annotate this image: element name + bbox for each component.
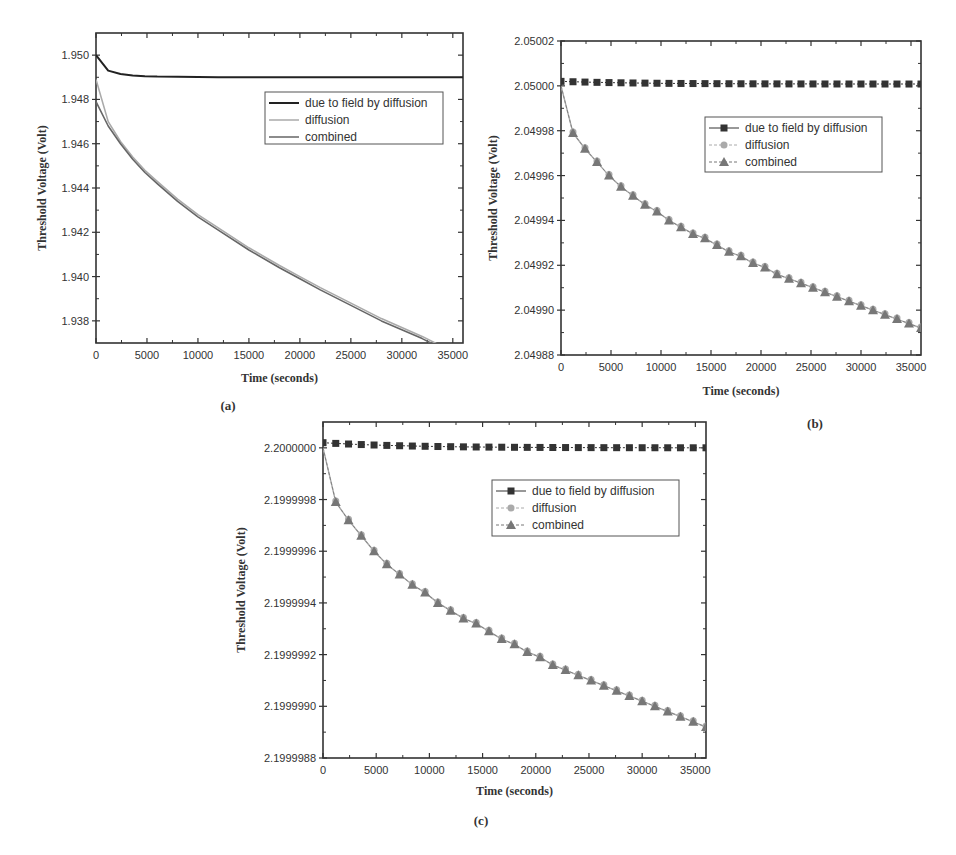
- circle-marker: [508, 505, 515, 512]
- y-axis-title: Threshold Voltage (Volt): [486, 135, 500, 260]
- square-marker: [870, 81, 877, 88]
- x-tick-label: 10000: [646, 361, 677, 373]
- legend-label: due to field by diffusion: [532, 484, 655, 498]
- y-tick-label: 1.946: [61, 138, 89, 150]
- square-marker: [473, 443, 480, 450]
- y-tick-label: 2.04990: [514, 304, 554, 316]
- triangle-marker: [458, 613, 468, 622]
- x-axis-title: Time (seconds): [703, 384, 780, 398]
- y-tick-label: 2.2000000: [264, 442, 316, 454]
- legend: due to field by diffusiondiffusioncombin…: [265, 92, 443, 144]
- triangle-marker: [586, 675, 596, 684]
- triangle-marker: [736, 251, 746, 260]
- legend-label: due to field by diffusion: [745, 121, 868, 135]
- x-tick-label: 15000: [696, 361, 727, 373]
- square-marker: [654, 80, 661, 87]
- triangle-marker: [497, 634, 507, 643]
- triangle-marker: [904, 319, 914, 328]
- triangle-marker: [612, 686, 622, 695]
- square-marker: [664, 444, 671, 451]
- x-tick-label: 30000: [846, 361, 877, 373]
- x-tick-label: 35000: [680, 764, 711, 776]
- square-marker: [786, 80, 793, 87]
- triangle-marker: [724, 247, 734, 256]
- y-tick-label: 2.04998: [514, 125, 554, 137]
- triangle-marker: [748, 258, 758, 267]
- triangle-marker: [832, 292, 842, 301]
- y-tick-label: 1.948: [61, 93, 89, 105]
- legend-label: combined: [532, 518, 584, 532]
- square-marker: [918, 81, 925, 88]
- legend-label: due to field by diffusion: [305, 96, 428, 110]
- square-marker: [409, 443, 416, 450]
- triangle-marker: [844, 296, 854, 305]
- y-tick-label: 1.938: [61, 315, 89, 327]
- triangle-marker: [808, 283, 818, 292]
- square-marker: [846, 80, 853, 87]
- square-marker: [498, 444, 505, 451]
- triangle-marker: [760, 263, 770, 272]
- plot-area: [558, 78, 927, 332]
- square-marker: [320, 439, 327, 446]
- triangle-marker: [652, 206, 662, 215]
- square-marker: [588, 444, 595, 451]
- triangle-marker: [624, 691, 634, 700]
- x-tick-label: 20000: [285, 349, 316, 361]
- y-tick-label: 2.04988: [514, 349, 554, 361]
- square-marker: [345, 441, 352, 448]
- square-marker: [822, 80, 829, 87]
- figure-caption: (c): [474, 813, 488, 828]
- square-marker: [690, 444, 697, 451]
- square-marker: [606, 79, 613, 86]
- square-marker: [332, 440, 339, 447]
- legend-label: diffusion: [532, 501, 576, 515]
- square-marker: [690, 80, 697, 87]
- x-tick-label: 25000: [574, 764, 605, 776]
- x-tick-label: 0: [558, 361, 564, 373]
- legend: due to field by diffusiondiffusioncombin…: [705, 117, 882, 172]
- plot-frame: [96, 33, 463, 343]
- triangle-marker: [675, 712, 685, 721]
- x-tick-label: 0: [320, 764, 326, 776]
- square-marker: [906, 81, 913, 88]
- square-marker: [575, 444, 582, 451]
- triangle-marker: [676, 222, 686, 231]
- square-marker: [447, 443, 454, 450]
- x-tick-label: 20000: [520, 764, 551, 776]
- triangle-marker: [650, 701, 660, 710]
- triangle-marker: [420, 588, 430, 597]
- triangle-marker: [573, 670, 583, 679]
- square-marker: [642, 80, 649, 87]
- y-tick-label: 2.05002: [514, 35, 554, 47]
- square-marker: [508, 488, 515, 495]
- square-marker: [524, 444, 531, 451]
- y-tick-label: 2.1999992: [264, 649, 316, 661]
- triangle-marker: [484, 626, 494, 635]
- triangle-marker: [892, 314, 902, 323]
- square-marker: [858, 80, 865, 87]
- triangle-marker: [820, 287, 830, 296]
- triangle-marker: [637, 696, 647, 705]
- triangle-marker: [640, 200, 650, 209]
- square-marker: [562, 444, 569, 451]
- square-marker: [549, 444, 556, 451]
- square-marker: [702, 80, 709, 87]
- square-marker: [358, 441, 365, 448]
- y-tick-label: 1.940: [61, 271, 89, 283]
- x-tick-label: 5000: [135, 349, 159, 361]
- legend: due to field by diffusiondiffusioncombin…: [492, 480, 679, 536]
- square-marker: [600, 444, 607, 451]
- square-marker: [810, 80, 817, 87]
- y-tick-label: 2.04996: [514, 170, 554, 182]
- y-tick-label: 1.942: [61, 226, 89, 238]
- square-marker: [613, 444, 620, 451]
- triangle-marker: [510, 639, 520, 648]
- x-tick-label: 10000: [183, 349, 214, 361]
- square-marker: [834, 80, 841, 87]
- square-marker: [714, 80, 721, 87]
- x-tick-label: 35000: [896, 361, 927, 373]
- square-marker: [396, 442, 403, 449]
- figure-caption: (b): [807, 416, 823, 431]
- triangle-marker: [784, 274, 794, 283]
- triangle-marker: [331, 497, 341, 506]
